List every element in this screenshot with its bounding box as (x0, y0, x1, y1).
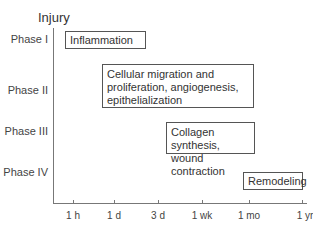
phase-box-line: wound contraction (171, 152, 250, 178)
x-tick (158, 200, 159, 203)
phase-box-collagen: Collagen synthesis, wound contraction (166, 122, 255, 154)
x-label-1mo: 1 mo (234, 210, 264, 221)
y-axis (53, 28, 54, 204)
x-tick (249, 200, 250, 203)
y-label-phase-1: Phase I (0, 33, 48, 45)
x-label-1wk: 1 wk (187, 210, 217, 221)
diagram-title: Injury (38, 10, 70, 25)
x-tick (302, 200, 303, 203)
phase-box-remodeling: Remodeling (243, 172, 303, 190)
phase-box-line: proliferation, angiogenesis, (107, 81, 249, 94)
x-axis (53, 203, 307, 204)
phase-box-label: Remodeling (248, 175, 307, 187)
phase-box-line: Cellular migration and (107, 68, 249, 81)
phase-box-label: Inflammation (70, 34, 133, 46)
phase-box-proliferation: Cellular migration and proliferation, an… (102, 64, 254, 108)
y-label-phase-4: Phase IV (0, 166, 48, 178)
y-label-phase-3: Phase III (0, 125, 48, 137)
x-label-3d: 3 d (143, 210, 173, 221)
y-label-phase-2: Phase II (0, 84, 48, 96)
x-tick (202, 200, 203, 203)
x-label-1d: 1 d (99, 210, 129, 221)
x-tick (73, 200, 74, 203)
x-tick (114, 200, 115, 203)
x-label-1h: 1 h (58, 210, 88, 221)
phase-box-line: Collagen synthesis, (171, 126, 250, 152)
phase-box-line: epithelialization (107, 94, 249, 107)
x-label-1yr: 1 yr (290, 210, 313, 221)
phase-box-inflammation: Inflammation (65, 31, 146, 49)
